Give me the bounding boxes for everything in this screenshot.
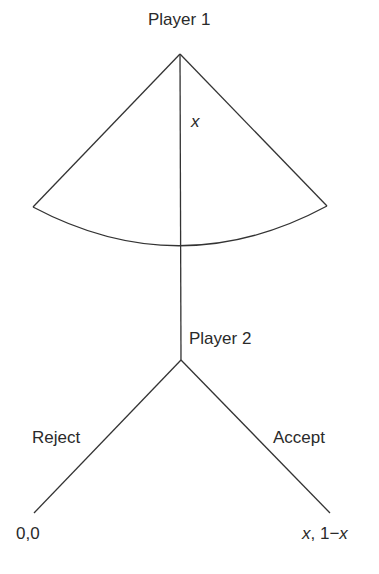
game-tree-diagram (0, 0, 379, 574)
player2-label: Player 2 (189, 330, 251, 347)
reject-payoff: 0,0 (16, 525, 40, 542)
accept-label: Accept (273, 429, 325, 446)
reject-label: Reject (32, 429, 80, 446)
accept-payoff-sep: , 1− (311, 524, 340, 543)
accept-payoff-x: x (302, 524, 311, 543)
player1-left-edge (33, 54, 180, 207)
offer-x-edge (180, 54, 181, 360)
player1-label: Player 1 (148, 11, 210, 28)
accept-payoff-x2: x (339, 524, 348, 543)
accept-payoff: x, 1−x (302, 525, 348, 542)
offer-x-label: x (191, 113, 200, 130)
player1-right-edge (180, 54, 327, 206)
